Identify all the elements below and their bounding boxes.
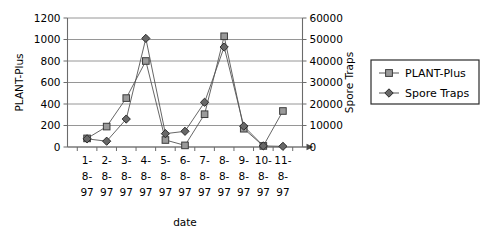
- data-point-marker-square: [103, 123, 110, 130]
- x-tick-label: 8-: [219, 154, 230, 166]
- right-tick-label: 60000: [310, 12, 343, 24]
- series-group: [83, 33, 287, 150]
- left-axis-title: PLANT-Plus: [13, 53, 25, 111]
- right-tick-label: 30000: [310, 76, 343, 88]
- x-tick-label: 2-: [101, 154, 112, 166]
- data-point-marker-diamond: [142, 34, 150, 42]
- data-point-marker-square: [182, 142, 189, 149]
- left-tick-label: 1200: [34, 12, 61, 24]
- x-tick-label: 8-: [160, 170, 171, 182]
- data-point-marker-diamond: [200, 98, 208, 106]
- x-tick-label: 97: [139, 186, 152, 198]
- x-tick-label: 6-: [180, 154, 191, 166]
- chart-container: 020040060080010001200 010000200003000040…: [0, 0, 485, 238]
- x-tick-label: 97: [159, 186, 172, 198]
- data-point-marker-square: [123, 95, 130, 102]
- left-tick-label: 800: [40, 55, 60, 67]
- x-tick-label: 8-: [121, 170, 132, 182]
- data-point-marker-square: [280, 108, 287, 115]
- legend-marker-square: [386, 70, 393, 77]
- x-tick-label: 8-: [258, 170, 269, 182]
- left-tick-label: 1000: [34, 33, 61, 45]
- legend-label: Spore Traps: [405, 87, 470, 100]
- legend-label: PLANT-Plus: [405, 67, 466, 80]
- right-axis-title: Spore Traps: [343, 52, 355, 113]
- data-point-marker-square: [143, 58, 150, 65]
- right-tick-label: 50000: [310, 33, 343, 45]
- right-axis-tick-labels: 0100002000030000400005000060000: [310, 12, 343, 153]
- left-tick-label: 200: [40, 119, 60, 131]
- x-tick-label: 97: [237, 186, 250, 198]
- x-axis-tick-labels: 1-8-972-8-973-8-974-8-975-8-976-8-977-8-…: [80, 154, 291, 198]
- chart-legend: PLANT-PlusSpore Traps: [371, 60, 479, 104]
- x-tick-label: 5-: [160, 154, 171, 166]
- chart-svg: 020040060080010001200 010000200003000040…: [0, 0, 485, 238]
- x-tick-label: 97: [80, 186, 93, 198]
- left-axis-ticks: [64, 18, 68, 147]
- left-tick-label: 400: [40, 98, 60, 110]
- left-tick-label: 600: [40, 76, 60, 88]
- x-tick-label: 10-: [255, 154, 272, 166]
- right-tick-label: 0: [310, 141, 317, 153]
- x-tick-label: 97: [178, 186, 191, 198]
- left-axis-tick-labels: 020040060080010001200: [34, 12, 61, 153]
- x-tick-label: 8-: [199, 170, 210, 182]
- x-tick-label: 7-: [199, 154, 210, 166]
- x-tick-label: 8-: [239, 170, 250, 182]
- x-tick-label: 97: [198, 186, 211, 198]
- x-tick-label: 4-: [141, 154, 152, 166]
- data-point-marker-square: [221, 33, 228, 40]
- x-tick-label: 97: [100, 186, 113, 198]
- x-tick-label: 8-: [278, 170, 289, 182]
- x-tick-label: 8-: [180, 170, 191, 182]
- x-tick-label: 97: [120, 186, 133, 198]
- right-tick-label: 10000: [310, 119, 343, 131]
- x-tick-label: 11-: [274, 154, 291, 166]
- right-tick-label: 20000: [310, 98, 343, 110]
- data-point-marker-diamond: [181, 127, 189, 135]
- x-tick-label: 8-: [141, 170, 152, 182]
- series-spore-traps: [83, 34, 287, 150]
- x-tick-label: 3-: [121, 154, 132, 166]
- left-tick-label: 0: [54, 141, 61, 153]
- x-tick-label: 97: [257, 186, 270, 198]
- data-point-marker-square: [201, 111, 208, 118]
- x-tick-label: 9-: [239, 154, 250, 166]
- x-tick-label: 8-: [82, 170, 93, 182]
- x-tick-label: 8-: [101, 170, 112, 182]
- x-tick-label: 97: [217, 186, 230, 198]
- x-axis-title: date: [173, 216, 197, 228]
- right-tick-label: 40000: [310, 55, 343, 67]
- data-point-marker-diamond: [279, 142, 287, 150]
- right-axis-ticks: [303, 18, 307, 147]
- x-tick-label: 1-: [82, 154, 93, 166]
- x-tick-label: 8-: [219, 170, 230, 182]
- x-tick-label: 97: [276, 186, 289, 198]
